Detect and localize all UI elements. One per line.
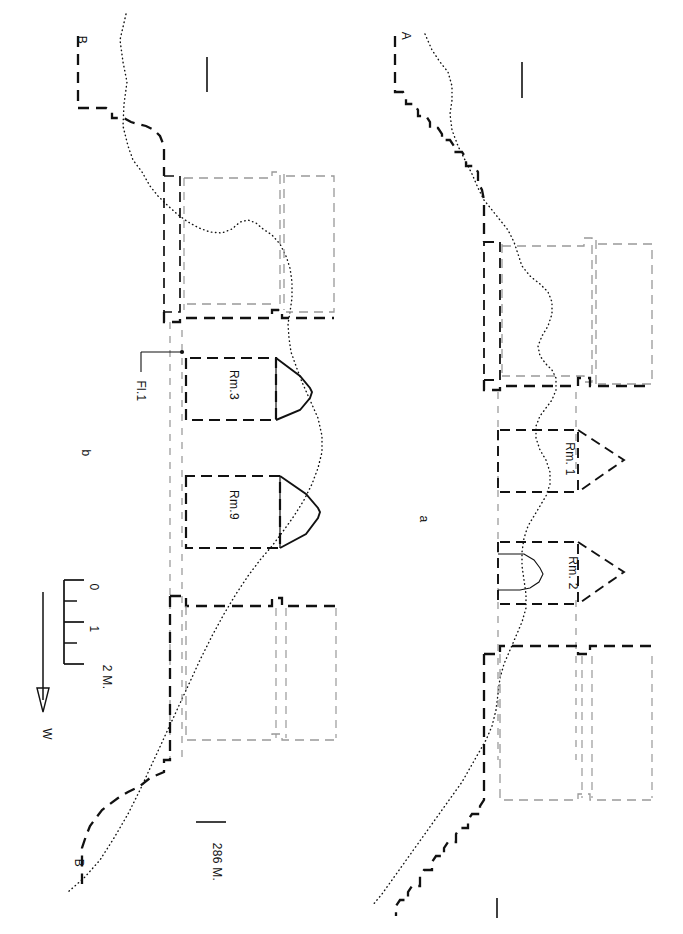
panel-a-group (372, 34, 652, 918)
wall-block-b3 (284, 174, 334, 312)
room-label-rm9: Rm.9 (227, 490, 241, 520)
excavation-profile-a-lower (396, 654, 484, 916)
scale-tick-label-1: 1 (87, 626, 101, 633)
excavation-profile-b-upper (78, 36, 164, 176)
cross-section-drawing (0, 0, 683, 934)
room-label-rm3: Rm.3 (227, 370, 241, 400)
section-marker-b-bottom: B (72, 859, 86, 867)
wall-block-a4-div (582, 656, 652, 798)
section-marker-a-top: A (399, 32, 413, 40)
scale-tick-label-2m: 2 M. (100, 665, 114, 690)
panel-label-b: b (79, 450, 93, 457)
room-rm1-vault (578, 430, 624, 492)
west-arrow-group (37, 592, 49, 712)
room-rm2-vault (578, 542, 624, 604)
wall-block-b1 (164, 176, 180, 312)
west-arrow-label: W (40, 728, 54, 740)
ground-surface-dotted-b-top (68, 14, 322, 892)
scale-bar-group (64, 580, 84, 664)
profile-b-lower-step (170, 596, 336, 606)
section-marker-b-top: B (75, 36, 89, 44)
wall-block-a3 (596, 240, 652, 384)
profile-b-mid-step (164, 310, 334, 322)
wall-block-b4 (186, 606, 336, 740)
fl1-leader-dot (180, 350, 184, 354)
room-rm9-vault (280, 476, 320, 548)
wall-block-b2 (184, 172, 280, 310)
excavation-profile-b-lower (82, 596, 170, 884)
wall-block-a2 (502, 238, 592, 382)
floor-label-fl1: Fl.1 (134, 380, 148, 401)
wall-block-b4-div (276, 608, 336, 738)
panel-b-group (68, 14, 336, 892)
room-label-rm2: Rm. 2 (566, 556, 580, 590)
room-label-rm1: Rm. 1 (563, 442, 577, 476)
scale-tick-label-0: 0 (87, 584, 101, 591)
excavation-profile-a-upper (395, 36, 484, 242)
profile-a-mid-step (484, 378, 652, 390)
ground-surface-dotted-a (372, 34, 556, 906)
wall-block-a1 (484, 242, 500, 380)
room-rm2-inner-curve (498, 554, 543, 590)
profile-a-lower-step (484, 646, 652, 654)
room-rm3-vault (276, 358, 312, 420)
elevation-label-286m: 286 M. (210, 843, 224, 882)
panel-label-a: a (417, 516, 431, 523)
figure-canvas: B B A b a Rm.3 Rm.9 Rm. 1 Rm. 2 Fl.1 286… (0, 0, 683, 934)
